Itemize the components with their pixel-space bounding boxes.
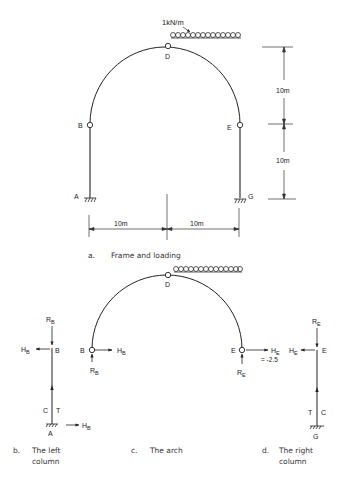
node-label-E: E — [231, 347, 236, 354]
fixed-support-G-icon — [234, 199, 246, 203]
node-label-A: A — [48, 430, 53, 437]
load-label: 1kN/m — [162, 18, 184, 27]
caption-a: Frame and loading — [111, 251, 181, 260]
force-value-HE: = -2.5 — [261, 356, 278, 363]
force-label-RE: RE — [237, 369, 246, 378]
caption-c-letter: c. — [131, 446, 138, 455]
label-C: C — [43, 407, 48, 414]
label-T: T — [308, 409, 313, 416]
axial-arrow-icon — [315, 387, 318, 392]
hinge-D-icon — [165, 272, 170, 277]
distributed-load-icon — [174, 267, 243, 273]
force-label-HE: HE — [271, 347, 280, 356]
figure-b-left-column: RB HB B C T A HB b. The left column — [13, 316, 91, 466]
dim-horizontal-right: 10m — [190, 220, 204, 227]
node-label-E: E — [322, 347, 327, 354]
hinge-E-icon — [237, 122, 242, 127]
caption-b-letter: b. — [13, 446, 20, 455]
dim-vertical-top: 10m — [276, 87, 290, 94]
dim-vertical-bottom: 10m — [276, 157, 290, 164]
label-C: C — [321, 409, 326, 416]
distributed-load-icon — [171, 27, 242, 38]
node-label-E: E — [227, 124, 232, 131]
hinge-B-icon — [89, 347, 94, 352]
force-label-HB: HB — [117, 347, 126, 356]
node-label-G: G — [248, 193, 253, 200]
force-label-RB: RB — [46, 316, 55, 325]
force-label-RB: RB — [90, 367, 99, 376]
figure-a-frame-and-loading: 1kN/m D B E A G — [74, 18, 296, 260]
figure-d-right-column: RE HE E T C G d. The right column — [262, 318, 327, 466]
caption-d-letter: d. — [262, 446, 269, 455]
figure-c-arch: D B E HB RB HE = -2.5 RE c. The arch — [80, 267, 280, 456]
horizontal-dimension — [89, 194, 239, 240]
hinge-B-icon — [87, 122, 92, 127]
hinge-E-icon — [239, 347, 244, 352]
node-label-B: B — [55, 347, 60, 354]
node-label-G: G — [313, 433, 318, 440]
structural-diagram: 1kN/m D B E A G — [0, 0, 345, 485]
caption-d-line1: The right — [278, 446, 313, 455]
node-label-A: A — [74, 193, 79, 200]
node-label-D: D — [165, 53, 170, 60]
node-label-D: D — [165, 281, 170, 288]
hinge-D-icon — [165, 43, 170, 48]
caption-a-letter: a. — [88, 251, 95, 260]
caption-d-line2: column — [279, 457, 307, 466]
node-label-B: B — [80, 347, 85, 354]
vertical-dimension — [262, 47, 296, 199]
force-label-HE: HE — [289, 347, 298, 356]
caption-b-line1: The left — [31, 446, 61, 455]
fixed-support-A-icon — [84, 198, 96, 202]
force-label-RE: RE — [312, 318, 321, 327]
axial-arrow-icon — [50, 385, 53, 390]
fixed-support-G-icon — [310, 426, 324, 429]
caption-b-line2: column — [32, 457, 60, 466]
label-T: T — [56, 407, 61, 414]
dim-horizontal-left: 10m — [114, 220, 128, 227]
force-label-HB-base: HB — [82, 422, 91, 431]
node-label-B: B — [78, 122, 83, 129]
fixed-support-A-icon — [46, 424, 58, 427]
caption-c: The arch — [149, 446, 183, 455]
force-label-HB: HB — [21, 346, 30, 355]
